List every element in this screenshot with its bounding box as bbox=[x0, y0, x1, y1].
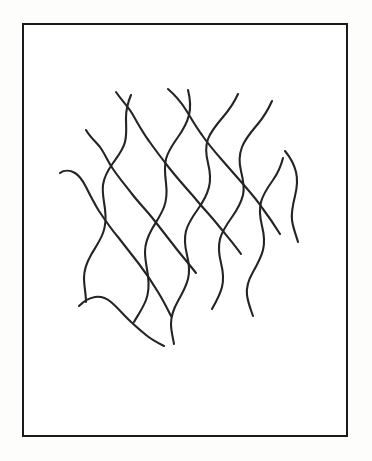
picture-frame bbox=[22, 23, 348, 437]
page-canvas: Net Hand-drawn line drawing of a fishing… bbox=[0, 0, 372, 461]
